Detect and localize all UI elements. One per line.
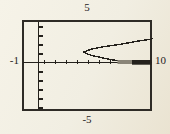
curve-upper-branch: [84, 39, 152, 52]
graph-canvas: [0, 0, 170, 134]
axis-overlap-gray-segment: [118, 60, 134, 64]
textbook-figure: 5 -1 10 -5: [0, 0, 170, 134]
axis-overlap-dark-segment: [132, 60, 152, 65]
curve-lower-branch: [84, 52, 118, 61]
